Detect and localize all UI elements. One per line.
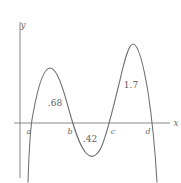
- x-axis-label: x: [173, 118, 178, 128]
- tick-label-b: b: [67, 127, 72, 136]
- tick-label-d: d: [145, 127, 150, 136]
- tick-label-a: a: [27, 127, 32, 136]
- figure-background: [0, 0, 181, 183]
- graph-canvas: y x a b c d .68 .42 1.7: [0, 0, 181, 183]
- area-label-third: 1.7: [124, 80, 139, 90]
- tick-label-c: c: [111, 127, 116, 136]
- area-label-first: .68: [48, 98, 63, 108]
- y-axis-label: y: [19, 20, 26, 30]
- area-label-second: .42: [83, 134, 97, 144]
- figure-container: y x a b c d .68 .42 1.7: [0, 0, 181, 183]
